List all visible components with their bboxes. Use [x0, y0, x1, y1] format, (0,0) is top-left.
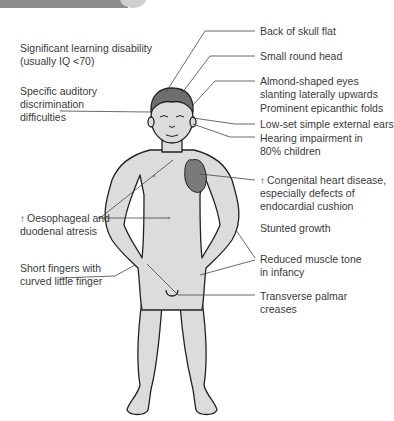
label-auditory-discrimination: Specific auditory discrimination difficu… [20, 85, 97, 124]
label-external-ears: Low-set simple external ears [260, 118, 394, 131]
up-arrow-icon: ↑ [260, 175, 265, 186]
label-oesophageal-atresia: ↑Oesophageal and duodenal atresis [20, 212, 110, 238]
left-leg [127, 300, 162, 415]
label-almond-eyes: Almond-shaped eyes slanting laterally up… [260, 75, 378, 101]
label-palmar-creases: Transverse palmar creases [260, 290, 347, 316]
label-congenital-heart: ↑Congenital heart disease, especially de… [260, 174, 386, 213]
torso [105, 150, 239, 310]
label-stunted-growth: Stunted growth [260, 222, 331, 235]
right-leg [180, 300, 217, 415]
label-learning-disability: Significant learning disability (usually… [20, 42, 152, 68]
up-arrow-icon: ↑ [20, 213, 25, 224]
label-round-head: Small round head [260, 50, 342, 63]
label-epicanthic-folds: Prominent epicanthic folds [260, 102, 383, 115]
label-hearing-impairment: Hearing impairment in 80% children [260, 132, 363, 158]
label-muscle-tone: Reduced muscle tone in infancy [260, 253, 362, 279]
label-skull-flat: Back of skull flat [260, 25, 336, 38]
label-short-fingers: Short fingers with curved little finger [20, 262, 102, 288]
